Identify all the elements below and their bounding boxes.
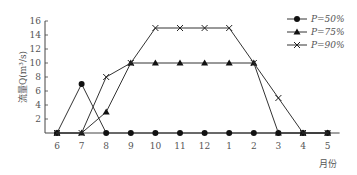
y-tick-label: 4 bbox=[35, 100, 41, 110]
series bbox=[54, 25, 332, 136]
x-tick-label: 9 bbox=[128, 141, 134, 151]
y-tick-label: 8 bbox=[35, 72, 41, 82]
x-tick-label: 6 bbox=[54, 141, 60, 151]
x-tick-label: 12 bbox=[199, 141, 210, 151]
series-triangle bbox=[54, 60, 332, 136]
y-tick-label: 10 bbox=[30, 58, 42, 68]
legend-item: P=90% bbox=[287, 40, 345, 50]
legend-item: P=50% bbox=[287, 14, 345, 24]
x-tick-label: 10 bbox=[150, 141, 162, 151]
x-tick-label: 7 bbox=[79, 141, 85, 151]
y-tick-label: 2 bbox=[35, 114, 41, 124]
x-tick-label: 11 bbox=[174, 141, 185, 151]
legend-label: P=90% bbox=[310, 40, 345, 50]
x-tick-label: 3 bbox=[276, 141, 282, 151]
x-tick-label: 1 bbox=[226, 141, 232, 151]
y-tick-label: 6 bbox=[35, 86, 41, 96]
legend-item: P=75% bbox=[287, 27, 345, 37]
series-x bbox=[54, 25, 331, 136]
flow-chart: 246810121416678910111212345月份流量Q(m³/s) P… bbox=[0, 0, 357, 175]
x-tick-label: 5 bbox=[325, 141, 331, 151]
x-tick-label: 4 bbox=[300, 141, 306, 151]
legend-label: P=75% bbox=[310, 27, 345, 37]
y-tick-label: 14 bbox=[30, 30, 42, 40]
y-axis-label: 流量Q(m³/s) bbox=[17, 51, 28, 103]
axes: 246810121416678910111212345月份流量Q(m³/s) bbox=[17, 16, 340, 169]
x-axis-label: 月份 bbox=[319, 158, 337, 169]
legend-label: P=50% bbox=[310, 14, 345, 24]
x-tick-label: 2 bbox=[251, 141, 257, 151]
y-tick-label: 12 bbox=[30, 44, 41, 54]
legend: P=50%P=75%P=90% bbox=[287, 14, 345, 50]
y-tick-label: 16 bbox=[30, 16, 42, 26]
series-circle bbox=[54, 81, 331, 136]
x-tick-label: 8 bbox=[103, 141, 109, 151]
